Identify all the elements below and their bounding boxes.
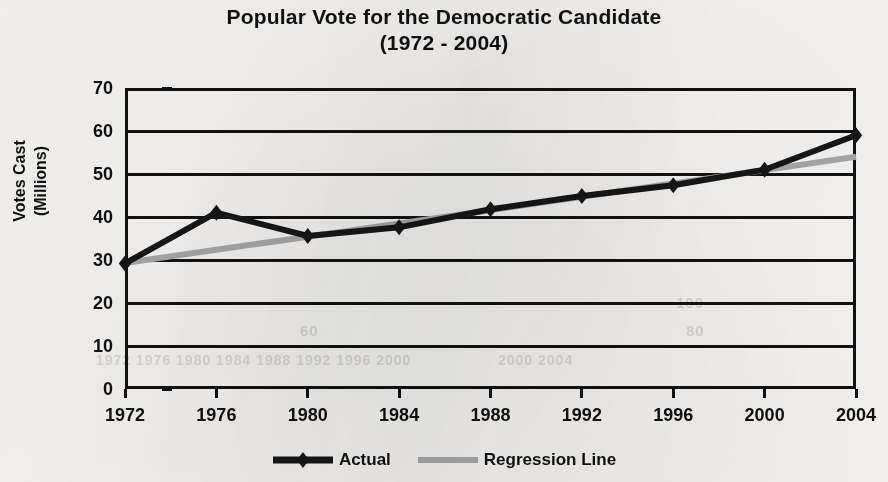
data-point-marker <box>758 162 770 178</box>
x-axis-tick-labels: 197219761980198419881992199620002004 <box>125 404 856 432</box>
x-axis-tick-label: 2000 <box>725 404 805 426</box>
x-axis-tick-mark <box>124 389 127 398</box>
legend-swatch-line-icon <box>417 451 479 469</box>
x-axis-tick-label: 1992 <box>542 404 622 426</box>
data-point-marker <box>302 228 314 244</box>
x-axis-tick-label: 1984 <box>359 404 439 426</box>
y-axis-tick-label: 40 <box>53 208 113 226</box>
x-axis-tick-label: 1980 <box>268 404 348 426</box>
data-point-marker <box>850 127 862 143</box>
y-axis-tick-label: 70 <box>53 79 113 97</box>
data-point-marker <box>484 201 496 217</box>
x-axis-tick-label: 1988 <box>451 404 531 426</box>
legend-entry-actual[interactable]: Actual <box>272 450 391 470</box>
chart-title-line-2: (1972 - 2004) <box>0 30 888 56</box>
legend-label: Actual <box>339 450 391 470</box>
data-point-marker <box>576 188 588 204</box>
x-axis-tick-mark <box>580 389 583 398</box>
y-axis-tick-label: 20 <box>53 294 113 312</box>
x-axis-tick-mark <box>763 389 766 398</box>
series-layer <box>125 88 856 389</box>
x-axis-tick-marks <box>125 389 859 399</box>
x-axis-tick-mark <box>855 389 858 398</box>
x-axis-tick-mark <box>672 389 675 398</box>
chart-title: Popular Vote for the Democratic Candidat… <box>0 4 888 56</box>
legend-label: Regression Line <box>484 450 616 470</box>
y-axis-tick-label: 30 <box>53 251 113 269</box>
x-axis-tick-mark <box>215 389 218 398</box>
y-axis-title-line-1: Votes Cast <box>11 140 28 222</box>
y-axis-tick-label: 50 <box>53 165 113 183</box>
x-axis-tick-mark <box>489 389 492 398</box>
legend-entry-regression-line[interactable]: Regression Line <box>417 450 616 470</box>
plot-area <box>125 88 856 389</box>
y-axis-tick-label: 10 <box>53 337 113 355</box>
chart-legend: ActualRegression Line <box>0 450 888 470</box>
y-axis-tick-labels: 706050403020100 <box>45 88 113 389</box>
y-axis-tick-label: 0 <box>53 380 113 398</box>
x-axis-tick-label: 1976 <box>176 404 256 426</box>
data-point-marker <box>667 177 679 193</box>
chart-title-line-1: Popular Vote for the Democratic Candidat… <box>227 5 662 28</box>
chart-figure: Popular Vote for the Democratic Candidat… <box>0 0 888 482</box>
y-axis-tick-label: 60 <box>53 122 113 140</box>
legend-swatch-line-diamond-icon <box>272 451 334 469</box>
x-axis-tick-label: 1996 <box>633 404 713 426</box>
x-axis-tick-label: 2004 <box>816 404 888 426</box>
x-axis-tick-label: 1972 <box>85 404 165 426</box>
x-axis-tick-mark <box>398 389 401 398</box>
x-axis-tick-mark <box>306 389 309 398</box>
